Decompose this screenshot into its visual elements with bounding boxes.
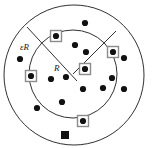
solid-squares-group <box>61 131 69 139</box>
boxed-point-marker <box>51 31 62 42</box>
point-marker <box>72 42 78 48</box>
epsilon-r-label: εR <box>20 42 30 52</box>
scatter-figure: εR R <box>0 0 152 148</box>
boxed-point-marker <box>80 64 91 75</box>
point-marker <box>63 74 69 80</box>
point-marker <box>34 105 40 111</box>
square-marker <box>61 131 69 139</box>
point-marker <box>80 86 86 92</box>
point-marker <box>109 75 115 81</box>
point-marker <box>83 49 89 55</box>
point-marker <box>48 76 54 82</box>
r-label: R <box>53 63 60 73</box>
figure-canvas: εR R <box>0 0 152 148</box>
point-marker <box>17 56 23 62</box>
radius-lines-group <box>27 27 116 81</box>
point-marker <box>100 85 106 91</box>
point-marker <box>59 99 65 105</box>
boxed-point-marker <box>78 116 89 127</box>
point-marker <box>82 20 88 26</box>
boxed-point-marker <box>108 47 119 58</box>
boxed-point-marker <box>26 71 37 82</box>
point-marker <box>121 86 127 92</box>
point-marker <box>121 55 127 61</box>
